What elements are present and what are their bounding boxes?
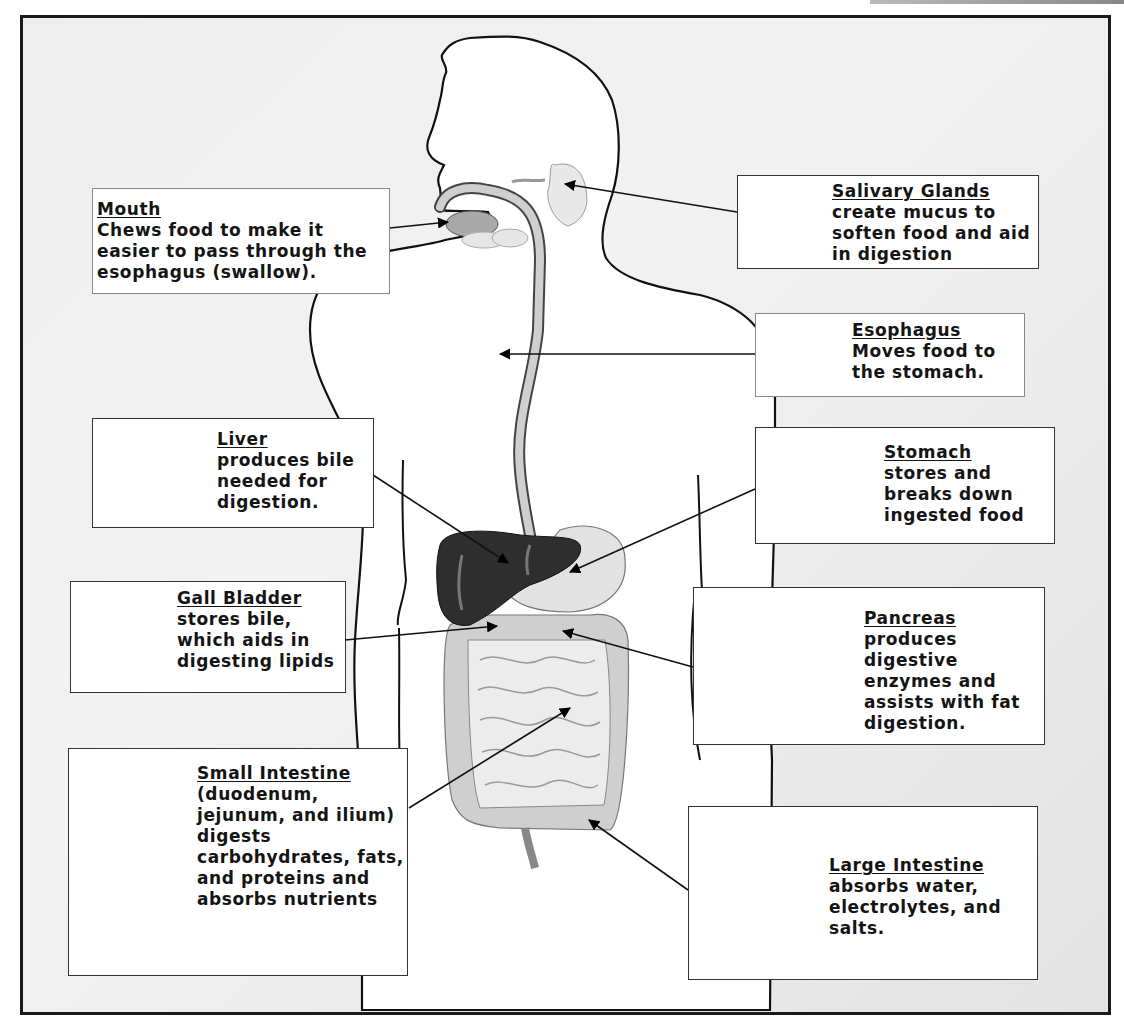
label-stomach-title: Stomach: [884, 442, 1054, 463]
label-large-intestine-title: Large Intestine: [829, 855, 1034, 876]
label-salivary-body: create mucus to soften food and aid in d…: [832, 202, 1032, 265]
label-stomach: Stomach stores and breaks down ingested …: [755, 427, 1055, 544]
label-small-intestine-title: Small Intestine: [197, 763, 407, 784]
label-pancreas-title: Pancreas: [864, 608, 1044, 629]
label-large-intestine-body: absorbs water, electrolytes, and salts.: [829, 876, 1034, 939]
label-liver-title: Liver: [217, 429, 372, 450]
label-stomach-body: stores and breaks down ingested food: [884, 463, 1054, 526]
label-liver-body: produces bile needed for digestion.: [217, 450, 372, 513]
label-gallbladder-body: stores bile, which aids in digesting lip…: [177, 609, 345, 672]
label-liver: Liver produces bile needed for digestion…: [92, 418, 374, 528]
label-esophagus-title: Esophagus: [852, 320, 1022, 341]
label-large-intestine: Large Intestine absorbs water, electroly…: [688, 806, 1038, 980]
label-gall-bladder: Gall Bladder stores bile, which aids in …: [70, 581, 346, 693]
label-small-intestine: Small Intestine (duodenum, jejunum, and …: [68, 748, 408, 976]
label-salivary-title: Salivary Glands: [832, 181, 1032, 202]
label-pancreas-body: produces digestive enzymes and assists w…: [864, 629, 1044, 734]
label-esophagus-body: Moves food to the stomach.: [852, 341, 1022, 383]
label-salivary-glands: Salivary Glands create mucus to soften f…: [737, 175, 1039, 269]
label-small-intestine-body: (duodenum, jejunum, and ilium) digests c…: [197, 784, 407, 910]
label-mouth-title: Mouth: [97, 199, 387, 220]
label-mouth-body: Chews food to make it easier to pass thr…: [97, 220, 387, 283]
label-gallbladder-title: Gall Bladder: [177, 588, 345, 609]
label-pancreas: Pancreas produces digestive enzymes and …: [693, 587, 1045, 745]
label-mouth: Mouth Chews food to make it easier to pa…: [92, 188, 390, 294]
label-esophagus: Esophagus Moves food to the stomach.: [755, 313, 1025, 397]
